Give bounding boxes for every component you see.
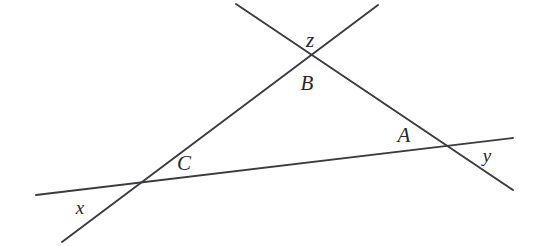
lines-group [36, 4, 513, 242]
label-c: C [177, 153, 191, 174]
label-x: x [76, 198, 84, 217]
label-a: A [398, 125, 411, 146]
line-z [236, 4, 513, 190]
geometry-figure: zBACyx [0, 0, 542, 246]
label-y: y [483, 146, 491, 165]
label-z: z [306, 30, 314, 51]
label-b: B [301, 73, 314, 94]
line-y [36, 138, 513, 195]
line-x [62, 5, 378, 242]
